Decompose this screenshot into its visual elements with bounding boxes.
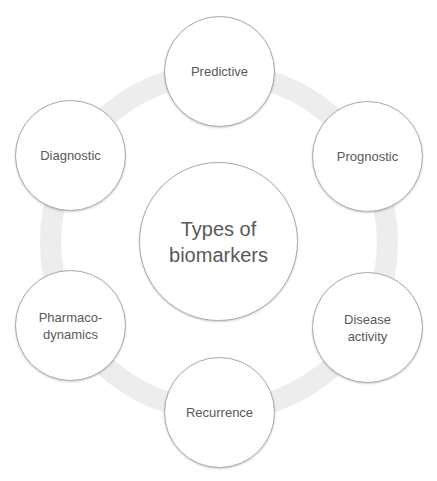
- node-label: Predictive: [191, 63, 248, 80]
- node-predictive: Predictive: [164, 16, 275, 127]
- node-label: Disease activity: [344, 311, 391, 345]
- node-recurrence: Recurrence: [164, 357, 275, 468]
- node-label: Prognostic: [337, 148, 398, 165]
- node-disease-activity: Disease activity: [312, 272, 423, 383]
- node-label: Recurrence: [186, 404, 253, 421]
- node-prognostic: Prognostic: [312, 101, 423, 212]
- node-label: Pharmaco- dynamics: [39, 309, 103, 343]
- center-node-types-of-biomarkers: Types of biomarkers: [139, 162, 298, 321]
- node-pharmacodynamics: Pharmaco- dynamics: [15, 270, 126, 381]
- center-node-label: Types of biomarkers: [169, 216, 268, 268]
- node-diagnostic: Diagnostic: [15, 100, 126, 211]
- node-label: Diagnostic: [40, 147, 101, 164]
